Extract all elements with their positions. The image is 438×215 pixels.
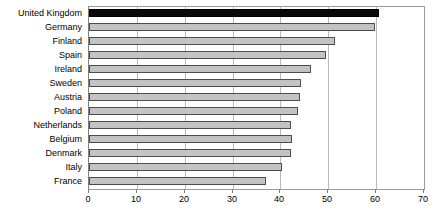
bar — [89, 177, 266, 185]
axis-tick-mark — [375, 189, 376, 193]
category-label: Netherlands — [0, 120, 82, 130]
bar-row — [89, 77, 424, 91]
bar — [89, 107, 298, 115]
axis-tick-mark — [423, 189, 424, 193]
plot-area — [88, 6, 425, 190]
category-label: Finland — [0, 36, 82, 46]
axis-tick-label: 70 — [408, 194, 438, 204]
category-label: Denmark — [0, 148, 82, 158]
bar-row — [89, 161, 424, 175]
category-label: Germany — [0, 22, 82, 32]
axis-tick-mark — [184, 189, 185, 193]
bar-row — [89, 63, 424, 77]
bar-row — [89, 133, 424, 147]
bar — [89, 149, 291, 157]
axis-tick-mark — [88, 189, 89, 193]
bar — [89, 65, 311, 73]
axis-tick-label: 60 — [360, 194, 390, 204]
bar-row — [89, 35, 424, 49]
axis-tick-mark — [279, 189, 280, 193]
bar — [89, 121, 291, 129]
bar-row — [89, 175, 424, 189]
bar-row — [89, 49, 424, 63]
axis-tick-mark — [232, 189, 233, 193]
bar — [89, 135, 292, 143]
axis-tick-label: 10 — [121, 194, 151, 204]
category-label: Spain — [0, 50, 82, 60]
bar-row — [89, 147, 424, 161]
value-axis: 010203040506070 — [88, 189, 424, 213]
category-label: Sweden — [0, 78, 82, 88]
category-label: Belgium — [0, 134, 82, 144]
category-label: Poland — [0, 106, 82, 116]
axis-tick-mark — [136, 189, 137, 193]
axis-tick-label: 40 — [264, 194, 294, 204]
category-label: Austria — [0, 92, 82, 102]
bar-chart: United KingdomGermanyFinlandSpainIreland… — [0, 0, 438, 215]
category-axis: United KingdomGermanyFinlandSpainIreland… — [0, 6, 86, 188]
category-label: Ireland — [0, 64, 82, 74]
plot-inner — [89, 7, 424, 189]
category-label: France — [0, 176, 82, 186]
bar — [89, 51, 326, 59]
bar-row — [89, 7, 424, 21]
bar — [89, 93, 300, 101]
bar — [89, 37, 335, 45]
bar-row — [89, 91, 424, 105]
bar-row — [89, 119, 424, 133]
axis-tick-mark — [327, 189, 328, 193]
axis-tick-label: 50 — [312, 194, 342, 204]
bar-row — [89, 105, 424, 119]
bar — [89, 23, 375, 31]
bar — [89, 163, 282, 171]
axis-tick-label: 20 — [169, 194, 199, 204]
bar-row — [89, 21, 424, 35]
category-label: Italy — [0, 162, 82, 172]
bar — [89, 79, 301, 87]
axis-tick-label: 30 — [217, 194, 247, 204]
axis-tick-label: 0 — [73, 194, 103, 204]
bar — [89, 9, 379, 17]
category-label: United Kingdom — [0, 8, 82, 18]
